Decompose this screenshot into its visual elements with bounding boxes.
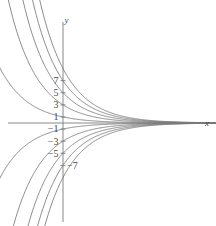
x-axis-label: x bbox=[204, 118, 209, 128]
exponential-curve bbox=[15, 0, 216, 123]
exponential-curve bbox=[32, 0, 216, 123]
y-tick-label: −1 bbox=[48, 123, 59, 134]
y-tick-label: −5 bbox=[48, 148, 59, 159]
curves-layer bbox=[0, 0, 216, 226]
y-tick-label: 3 bbox=[54, 99, 59, 110]
y-tick-label: −3 bbox=[48, 136, 59, 147]
chart-canvas: 7531−1−3−5−7 x y bbox=[0, 0, 216, 226]
y-axis-label: y bbox=[64, 15, 69, 25]
y-tick-label: −7 bbox=[67, 160, 78, 171]
y-tick-label: 5 bbox=[54, 87, 59, 98]
exponential-curve bbox=[0, 0, 216, 123]
exponential-family-plot: 7531−1−3−5−7 x y bbox=[0, 0, 216, 226]
y-tick-label: 1 bbox=[54, 111, 59, 122]
y-tick-label: 7 bbox=[54, 75, 59, 86]
